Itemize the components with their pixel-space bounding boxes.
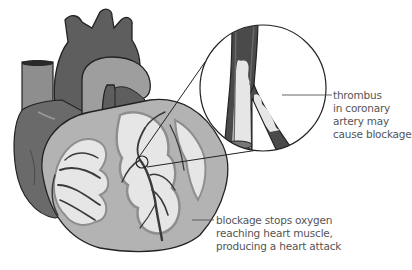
heart-diagram: thrombus in coronary artery may cause bl…: [0, 0, 412, 270]
thrombus-label-line: thrombus: [333, 89, 412, 102]
thrombus-label-line: cause blockage: [333, 128, 412, 141]
blockage-label-line: reaching heart muscle,: [216, 227, 341, 240]
blockage-label-line: blockage stops oxygen: [216, 214, 341, 227]
thrombus-label: thrombus in coronary artery may cause bl…: [333, 89, 412, 141]
thrombus-label-line: artery may: [333, 115, 412, 128]
ventricles: [42, 99, 228, 251]
thrombus-label-line: in coronary: [333, 102, 412, 115]
blockage-label: blockage stops oxygen reaching heart mus…: [216, 214, 341, 253]
blockage-label-line: producing a heart attack: [216, 240, 341, 253]
